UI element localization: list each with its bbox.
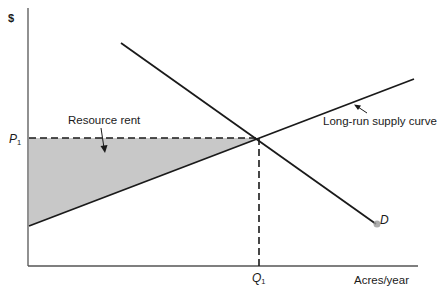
price-p1-subscript: 1 (17, 138, 21, 147)
demand-curve-label: D (380, 213, 389, 227)
price-p1-label: P1 (9, 132, 21, 147)
quantity-q1-main: Q (252, 271, 261, 285)
quantity-q1-subscript: 1 (261, 277, 265, 286)
resource-rent-diagram: $ Acres/year P1 Q1 Resource rent Long-ru… (0, 0, 443, 294)
quantity-q1-label: Q1 (252, 271, 266, 286)
demand-curve (121, 43, 376, 224)
x-axis-label: Acres/year (354, 274, 409, 286)
y-axis-label: $ (8, 12, 14, 24)
supply-curve-label: Long-run supply curve (323, 115, 437, 127)
price-p1-main: P (9, 132, 17, 146)
resource-rent-label: Resource rent (68, 114, 141, 126)
supply-label-arrowhead-icon (354, 105, 361, 111)
